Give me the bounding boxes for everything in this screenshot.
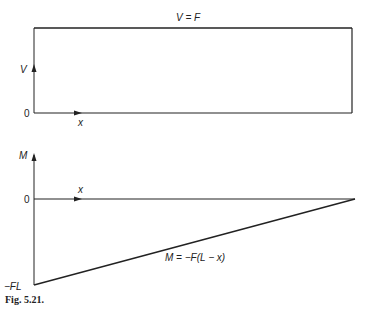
shear-diagram: [32, 28, 353, 116]
m-axis-arrow-icon: [32, 153, 37, 161]
x-axis-arrow-icon: [74, 111, 82, 116]
moment-min-label: −FL: [4, 281, 22, 292]
diagram-canvas: V = F V 0 x M x 0 −FL M = −F(L − x) Fig.…: [0, 0, 373, 310]
moment-y-axis-label: M: [19, 150, 28, 161]
moment-equation-label: M = −F(L − x): [165, 252, 225, 263]
moment-x-axis-label: x: [77, 184, 84, 195]
figure-caption: Fig. 5.21.: [5, 294, 44, 305]
moment-diagram: [32, 153, 356, 285]
moment-origin-label: 0: [24, 194, 30, 205]
shear-x-axis-label: x: [77, 117, 84, 128]
shear-value-label: V = F: [176, 12, 201, 23]
v-axis-arrow-icon: [32, 64, 37, 72]
shear-origin-label: 0: [24, 108, 30, 119]
shear-y-axis-label: V: [20, 64, 28, 75]
moment-line: [34, 199, 355, 285]
x-axis-arrow-icon: [74, 197, 82, 202]
